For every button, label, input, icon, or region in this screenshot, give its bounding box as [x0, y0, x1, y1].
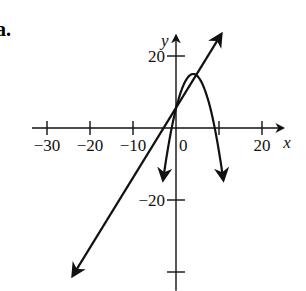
- parabola-series: [163, 74, 223, 180]
- line-series: [73, 34, 221, 275]
- y-tick-label: −20: [138, 191, 165, 210]
- chart: −30−20−1002020−20xy: [0, 0, 306, 291]
- x-tick-label: 20: [254, 136, 271, 155]
- x-tick-label: −10: [120, 136, 147, 155]
- tick-labels: −30−20−1002020−20xy: [34, 31, 291, 210]
- x-tick-label: 0: [179, 136, 188, 155]
- series: [73, 34, 224, 275]
- y-axis-label: y: [159, 31, 169, 50]
- x-tick-label: −30: [34, 136, 61, 155]
- x-axis-label: x: [282, 133, 291, 152]
- y-tick-label: 20: [148, 47, 165, 66]
- x-tick-label: −20: [77, 136, 104, 155]
- axes: [32, 36, 283, 291]
